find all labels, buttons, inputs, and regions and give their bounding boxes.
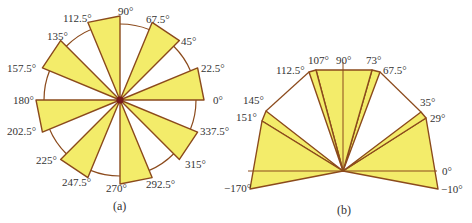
angle-label: 135° (47, 30, 68, 42)
angle-label: 67.5° (383, 64, 407, 76)
angle-label: −10° (441, 183, 463, 195)
caption-a: (a) (113, 199, 126, 213)
angle-label: 112.5° (63, 12, 92, 24)
angle-label: −170° (224, 182, 251, 194)
angle-label: 157.5° (7, 62, 36, 74)
angle-label: 90° (336, 54, 351, 66)
caption-b: (b) (337, 203, 351, 217)
figure-b-fan-diagram: 90°107°112.5°73°67.5°145°151°35°29°0°−17… (224, 54, 463, 217)
angle-label: 29° (430, 112, 445, 124)
connector-line (266, 72, 309, 111)
angle-label: 225° (36, 154, 57, 166)
angle-label: 202.5° (7, 125, 36, 137)
angle-label: 315° (185, 158, 206, 170)
angle-label: 67.5° (146, 13, 170, 25)
angle-label: 90° (118, 5, 133, 17)
center-dot (117, 97, 124, 104)
angle-label: 107° (308, 54, 329, 66)
angle-label: 247.5° (62, 176, 91, 188)
angle-label: 35° (420, 96, 435, 108)
angle-label: 0° (213, 94, 223, 106)
angle-label: 292.5° (146, 178, 175, 190)
angle-label: 45° (181, 35, 196, 47)
angle-label: 0° (442, 165, 452, 177)
connector-line (380, 72, 421, 112)
angle-label: 270° (106, 182, 127, 194)
angle-label: 112.5° (276, 64, 305, 76)
angle-label: 337.5° (200, 125, 229, 137)
angle-label: 145° (243, 94, 264, 106)
figure-canvas: 0°22.5°45°67.5°90°112.5°135°157.5°180°20… (0, 0, 472, 223)
figure-a-rose-diagram: 0°22.5°45°67.5°90°112.5°135°157.5°180°20… (7, 5, 229, 213)
angle-label: 73° (366, 54, 381, 66)
angle-label: 151° (236, 111, 257, 123)
angle-label: 22.5° (201, 62, 225, 74)
angle-label: 180° (13, 94, 34, 106)
